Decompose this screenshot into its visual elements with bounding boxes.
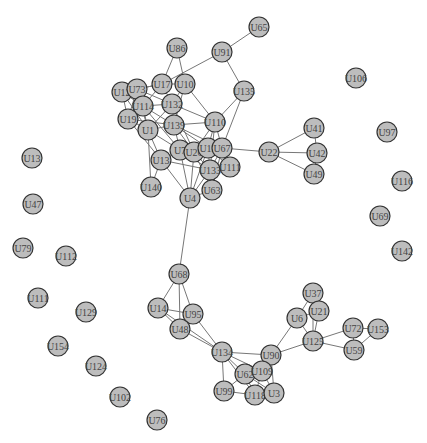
node-label: U110 [204,117,226,128]
graph-node: U140 [140,177,162,197]
node-label: U97 [378,127,395,138]
node-label: U19 [119,114,136,125]
node-label: U109 [251,366,273,377]
node-label: U114 [132,101,154,112]
graph-node: U48 [170,319,190,339]
node-label: U132 [161,99,183,110]
graph-node: U63 [202,180,222,200]
graph-node: U142 [391,241,413,261]
graph-node: U118 [244,385,266,405]
node-label: U22 [260,147,277,158]
node-label: U153 [367,324,389,335]
graph-node: U68 [169,264,189,284]
graph-node: U19 [118,109,138,129]
node-label: U14 [149,303,166,314]
node-label: U17 [153,79,170,90]
node-label: U13 [23,153,40,164]
graph-node: U116 [391,171,413,191]
node-label: U116 [391,176,413,187]
graph-node: U41 [304,118,324,138]
graph-node: U111 [219,157,240,177]
node-label: U79 [14,243,31,254]
node-label: U139 [163,120,185,131]
node-label: U135 [233,86,255,97]
node-label: U68 [170,269,187,280]
graph-node: U133 [199,160,221,180]
graph-node: U3 [264,383,284,403]
node-label: U67 [213,143,230,154]
graph-node: U67 [212,138,232,158]
graph-node: U153 [367,319,389,339]
graph-node: U106 [345,68,367,88]
node-label: U4 [184,193,196,204]
node-label: U129 [75,307,97,318]
node-label: U99 [215,386,232,397]
graph-node: U10 [175,74,195,94]
node-label: U48 [171,324,188,335]
node-label: U142 [391,246,413,257]
node-label: U76 [148,415,165,426]
graph-node: U69 [370,206,390,226]
node-label: U59 [345,345,362,356]
graph-node: U124 [85,356,107,376]
node-label: U47 [24,199,41,210]
graph-node: U76 [147,410,167,430]
graph-node: U97 [377,122,397,142]
node-label: U111 [219,162,240,173]
node-label: U65 [250,22,267,33]
node-label: U102 [109,392,131,403]
node-label: U73 [128,84,145,95]
node-label: U125 [302,336,324,347]
node-label: U140 [140,182,162,193]
node-label: U49 [305,169,322,180]
graph-node: U21 [309,301,329,321]
node-label: U118 [244,390,266,401]
graph-node: U91 [212,42,232,62]
graph-node: U72 [343,318,363,338]
graph-node: U135 [233,81,255,101]
graph-node: U4 [180,188,200,208]
node-label: U72 [344,323,361,334]
graph-node: U111 [27,288,48,308]
graph-node: U86 [167,38,187,58]
graph-node: U109 [251,361,273,381]
node-label: U95 [184,309,201,320]
graph-node: U13 [22,148,42,168]
graph-node: U22 [259,142,279,162]
node-label: U6 [291,313,303,324]
node-label: U86 [168,43,185,54]
network-graph: U65U86U91U17U10U12U73U114U132U135U19U1U1… [0,0,427,443]
edge [179,198,190,274]
node-label: U21 [310,306,327,317]
graph-node: U154 [47,336,69,356]
node-label: U1 [142,125,154,136]
node-label: U124 [85,361,107,372]
graph-node: U49 [304,164,324,184]
node-label: U37 [304,288,321,299]
node-label: U13 [152,155,169,166]
node-label: U90 [262,350,279,361]
graph-node: U129 [75,302,97,322]
node-layer: U65U86U91U17U10U12U73U114U132U135U19U1U1… [13,17,413,430]
node-label: U10 [176,79,193,90]
node-label: U106 [345,73,367,84]
graph-node: U1 [138,120,158,140]
graph-node: U79 [13,238,33,258]
graph-node: U139 [163,115,185,135]
graph-node: U99 [214,381,234,401]
graph-node: U134 [211,342,233,362]
node-label: U91 [213,47,230,58]
node-label: U63 [203,185,220,196]
graph-node: U37 [303,283,323,303]
node-label: U154 [47,341,69,352]
node-label: U111 [27,293,48,304]
node-label: U41 [305,123,322,134]
graph-node: U47 [23,194,43,214]
graph-node: U102 [109,387,131,407]
graph-node: U110 [204,112,226,132]
node-label: U112 [55,251,77,262]
graph-node: U17 [152,74,172,94]
graph-node: U42 [307,143,327,163]
graph-node: U132 [161,94,183,114]
graph-node: U112 [55,246,77,266]
